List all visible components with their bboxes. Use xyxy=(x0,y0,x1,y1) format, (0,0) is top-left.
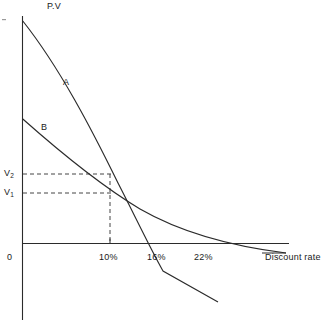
curve-b xyxy=(23,119,286,253)
curve-label-b: B xyxy=(41,123,47,132)
npv-profile-figure: P.V A B V2 V1 0 10% 16% 22% Discount rat… xyxy=(0,0,327,328)
x-tick-label-22: 22% xyxy=(194,253,213,262)
y-marker-v2: V2 xyxy=(4,169,14,178)
y-axis-label: P.V xyxy=(47,2,61,11)
x-tick-label-16: 16% xyxy=(147,253,166,262)
corner-mark-icon xyxy=(2,19,6,20)
origin-label: 0 xyxy=(7,253,12,262)
y-marker-v1-sub: 1 xyxy=(10,191,14,198)
y-marker-v2-sub: 2 xyxy=(10,172,14,179)
chart-canvas xyxy=(0,0,327,328)
x-axis-label: Discount rate xyxy=(265,253,321,262)
curve-a xyxy=(23,21,218,302)
x-tick-label-10: 10% xyxy=(99,253,118,262)
curve-label-a: A xyxy=(63,78,69,87)
y-marker-v1: V1 xyxy=(4,188,14,197)
